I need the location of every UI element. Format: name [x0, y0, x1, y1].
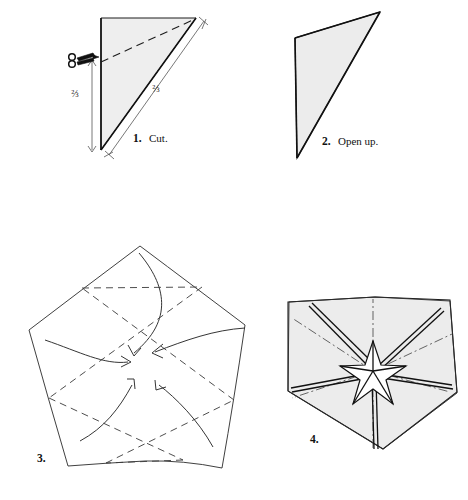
step-1-caption-number: 1. — [133, 132, 142, 144]
step-1-diagonal-fraction-label: ⅔ — [152, 83, 160, 94]
step-2-caption-number: 2. — [322, 135, 331, 147]
step-1-caption-label: Cut. — [149, 132, 168, 144]
step-3-caption-number: 3. — [37, 452, 46, 464]
step-2-caption-label: Open up. — [338, 135, 379, 147]
step-4-caption-number: 4. — [310, 433, 319, 445]
instruction-figure: ⅔ ⅔ 1. Cut. 2. Open up. — [0, 0, 468, 500]
step-1-left-fraction-label: ⅔ — [71, 88, 79, 99]
figure-root: ⅔ ⅔ 1. Cut. 2. Open up. — [0, 0, 468, 500]
